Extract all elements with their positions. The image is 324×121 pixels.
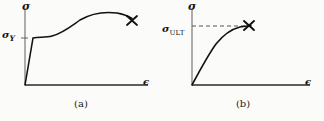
panel-a-plot <box>0 0 162 100</box>
fracture-x-marker-a <box>127 16 137 25</box>
x-axis-label-a: ϵ <box>143 77 149 87</box>
stress-strain-curve-a <box>25 12 132 85</box>
panel-a: σ ϵ σY (a) <box>0 0 162 121</box>
y-axis-label-b: σ <box>188 1 196 12</box>
caption-a: (a) <box>0 99 162 109</box>
x-axis-label-b: ϵ <box>305 77 311 87</box>
caption-b: (b) <box>162 99 324 109</box>
panel-b: σ ϵ σULT (b) <box>162 0 324 121</box>
ultimate-stress-subscript: ULT <box>169 29 184 37</box>
panel-b-plot <box>162 0 324 100</box>
ultimate-stress-label: σULT <box>162 24 185 37</box>
stress-strain-curve-b <box>192 26 251 85</box>
y-axis-label-a: σ <box>22 1 30 12</box>
yield-stress-subscript: Y <box>9 34 14 43</box>
stress-strain-figure: σ ϵ σY (a) σ ϵ σULT (b) <box>0 0 324 121</box>
yield-stress-label: σY <box>2 30 15 43</box>
